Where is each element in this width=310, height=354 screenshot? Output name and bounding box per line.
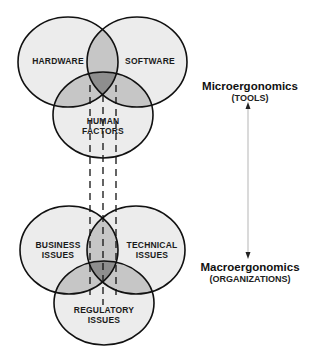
scale-arrow: [246, 102, 251, 259]
human-factors-label-line-1: HUMAN: [71, 116, 135, 126]
regulatory-issues-label: REGULATORY ISSUES: [68, 305, 140, 325]
ergonomics-diagram: [0, 0, 310, 354]
technical-issues-label-line-1: TECHNICAL: [120, 240, 184, 250]
business-issues-label: BUSINESS ISSUES: [26, 240, 90, 260]
regulatory-issues-label-line-2: ISSUES: [68, 315, 140, 325]
human-factors-label: HUMAN FACTORS: [71, 116, 135, 136]
software-label: SOFTWARE: [118, 56, 182, 66]
macroergonomics-title: Macroergonomics: [194, 261, 306, 273]
technical-issues-label-line-2: ISSUES: [120, 250, 184, 260]
arrow-down-icon: [246, 252, 251, 259]
technical-issues-label: TECHNICAL ISSUES: [120, 240, 184, 260]
microergonomics-title: Microergonomics: [198, 80, 302, 92]
software-label-line: SOFTWARE: [118, 56, 182, 66]
arrow-up-icon: [246, 102, 251, 109]
business-issues-label-line-2: ISSUES: [26, 250, 90, 260]
microergonomics-subtitle: (TOOLS): [198, 93, 302, 103]
human-factors-label-line-2: FACTORS: [71, 126, 135, 136]
hardware-label: HARDWARE: [26, 56, 90, 66]
regulatory-issues-label-line-1: REGULATORY: [68, 305, 140, 315]
macroergonomics-subtitle: (ORGANIZATIONS): [194, 274, 306, 284]
hardware-label-line: HARDWARE: [26, 56, 90, 66]
business-issues-label-line-1: BUSINESS: [26, 240, 90, 250]
